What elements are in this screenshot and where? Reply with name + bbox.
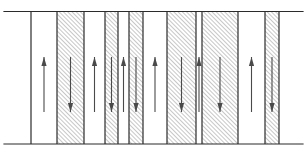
domain-diagram-canvas [0,0,307,157]
magnetic-domain-figure [0,0,307,157]
